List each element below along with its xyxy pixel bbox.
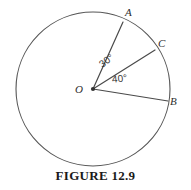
radius-ob [93, 89, 168, 101]
point-label-o: O [75, 84, 83, 95]
point-label-a: A [125, 7, 132, 18]
circle-diagram [0, 0, 191, 190]
point-label-b: B [170, 96, 177, 107]
figure-caption: FIGURE 12.9 [0, 168, 191, 184]
center-vertex-dot [91, 87, 95, 91]
angle-label-cob: 40° [112, 73, 128, 85]
figure-container: A C B O 30° 40° FIGURE 12.9 [0, 0, 191, 190]
point-label-c: C [158, 38, 165, 49]
